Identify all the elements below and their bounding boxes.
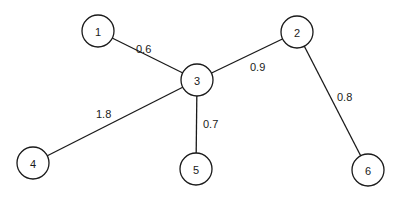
- edge-weight-label: 0.7: [203, 118, 218, 130]
- node-label: 5: [193, 164, 199, 176]
- nodes-layer: 123456: [17, 15, 384, 186]
- weighted-graph-diagram: 0.60.90.81.80.7 123456: [0, 0, 403, 197]
- node-5: 5: [180, 153, 212, 185]
- edge-weight-label: 0.6: [136, 43, 151, 55]
- node-6: 6: [352, 154, 384, 186]
- node-label: 3: [194, 75, 200, 87]
- node-2: 2: [281, 16, 313, 48]
- edge-weight-label: 1.8: [96, 108, 111, 120]
- edge-weight-label: 0.9: [250, 61, 265, 73]
- node-label: 1: [95, 26, 101, 38]
- node-label: 2: [294, 27, 300, 39]
- node-4: 4: [17, 147, 49, 179]
- node-1: 1: [82, 15, 114, 47]
- edge-weight-label: 0.8: [337, 91, 352, 103]
- edges-layer: 0.60.90.81.80.7: [33, 31, 368, 170]
- node-label: 4: [30, 158, 36, 170]
- edge-3-4: [33, 80, 197, 163]
- node-label: 6: [365, 165, 371, 177]
- edge-2-6: [297, 32, 368, 170]
- node-3: 3: [181, 64, 213, 96]
